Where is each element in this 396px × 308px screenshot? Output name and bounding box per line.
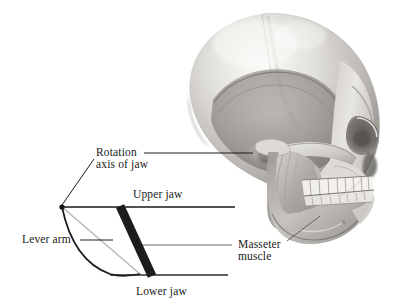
masseter-skull-leader (287, 216, 320, 241)
lever-arm-label: Lever arm (22, 233, 71, 246)
masseter-label-line2: muscle (238, 250, 271, 263)
leader-lines (0, 0, 396, 308)
rotation-axis-label-line2: axis of jaw (96, 158, 148, 171)
rotation-axis-leader-diagonal (62, 159, 94, 205)
figure-canvas: Rotation axis of jaw Upper jaw Lever arm… (0, 0, 396, 308)
upper-jaw-label: Upper jaw (133, 188, 183, 201)
rotation-axis-label-line1: Rotation (96, 146, 137, 159)
lower-jaw-label: Lower jaw (136, 285, 187, 298)
masseter-label-line1: Masseter (238, 238, 281, 251)
